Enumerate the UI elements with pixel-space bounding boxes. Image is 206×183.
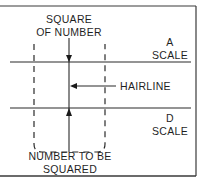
- arrow-left-icon: [70, 83, 77, 89]
- label-square-of-number-line1: SQUARE: [36, 13, 102, 26]
- label-a-scale-line1: A: [150, 36, 190, 49]
- label-d-scale-line1: D: [150, 112, 190, 125]
- slide-rule-squaring-diagram: SQUARE OF NUMBER A SCALE HAIRLINE D SCAL…: [0, 0, 206, 183]
- label-number-to-be-squared: NUMBER TO BE SQUARED: [26, 150, 114, 176]
- label-a-scale: A SCALE: [150, 36, 190, 62]
- label-number-to-be-squared-line2: SQUARED: [26, 163, 114, 176]
- label-hairline: HAIRLINE: [120, 80, 171, 93]
- label-square-of-number-line2: OF NUMBER: [36, 26, 102, 39]
- label-d-scale-line2: SCALE: [150, 125, 190, 138]
- label-square-of-number: SQUARE OF NUMBER: [36, 13, 102, 39]
- label-a-scale-line2: SCALE: [150, 49, 190, 62]
- label-d-scale: D SCALE: [150, 112, 190, 138]
- label-number-to-be-squared-line1: NUMBER TO BE: [26, 150, 114, 163]
- arrow-up-icon: [66, 108, 72, 116]
- arrow-down-icon: [66, 55, 72, 62]
